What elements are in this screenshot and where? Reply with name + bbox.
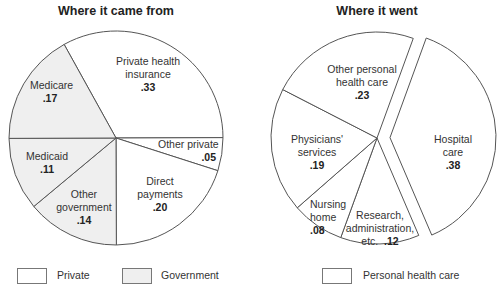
label-direct-payments: Directpayments.20: [130, 175, 190, 214]
label-research-administration: Research,administration,etc. .12: [345, 209, 415, 248]
label-hospital-care: Hospitalcare.38: [428, 133, 478, 172]
legend-swatch-personal-health-care: [322, 268, 352, 284]
label-other-government: Othergovernment.14: [56, 188, 112, 227]
label-nursing-home: Nursinghome.08: [310, 198, 350, 237]
label-other-private: Other private.05: [158, 138, 216, 164]
label-physicians-services: Physicians'services.19: [287, 133, 347, 172]
legend-swatch-private: [17, 268, 47, 284]
label-other-personal-health-care: Other personalhealth care.23: [322, 63, 402, 102]
legend-swatch-government: [122, 268, 152, 284]
legend-label-personal-health-care: Personal health care: [363, 269, 459, 281]
label-private-health-insurance: Private healthinsurance.33: [108, 55, 188, 94]
legend-label-government: Government: [161, 269, 219, 281]
legend-label-private: Private: [57, 269, 90, 281]
label-medicare: Medicare.17: [30, 79, 70, 105]
pie-charts: [0, 0, 500, 294]
label-medicaid: Medicaid.11: [24, 150, 70, 176]
